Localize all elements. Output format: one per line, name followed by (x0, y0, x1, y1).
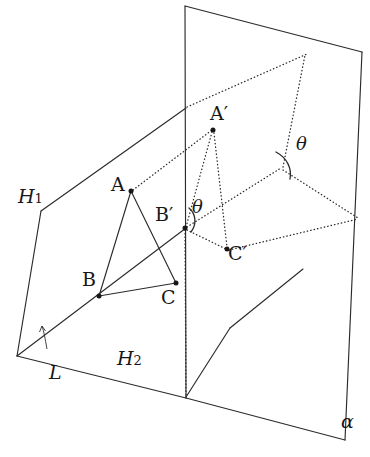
halfplane-h2-front-edge (17, 356, 186, 398)
label-point-c-prime-letter: C (228, 242, 243, 264)
vertex-dot-b (97, 294, 102, 299)
label-theta-near: θ (192, 198, 203, 216)
halfplane-h1-left-edge (17, 211, 41, 356)
theta-arc-far-fold (276, 152, 290, 179)
label-theta-far: θ (296, 135, 307, 153)
projection-aprime-to-cprime (214, 133, 227, 247)
label-point-c-prime-mark: ′ (243, 242, 247, 264)
plane-alpha-bottom-edge (186, 398, 345, 440)
label-point-a-prime-mark: ′ (224, 102, 228, 124)
label-point-b-prime: B′ (155, 205, 173, 224)
label-h2-subscript: 2 (134, 353, 142, 368)
label-point-b-prime-mark: ′ (169, 203, 173, 225)
hidden-plane-lower-right (229, 219, 358, 250)
label-h1-subscript: 1 (35, 191, 43, 206)
halfplane-h2-bend-edge (186, 328, 230, 397)
halfplane-h2-right-edge (230, 269, 303, 328)
label-point-b-prime-letter: B (155, 203, 169, 225)
label-point-a-prime: A′ (210, 104, 228, 123)
label-point-a-prime-letter: A (210, 102, 224, 124)
projection-bprime-to-cprime (187, 230, 226, 249)
label-h1-letter: H (18, 185, 35, 207)
label-h2: H2 (117, 349, 142, 368)
label-point-c: C (161, 288, 176, 307)
label-point-a: A (111, 175, 125, 194)
label-l: L (49, 363, 62, 382)
label-h2-letter: H (117, 347, 134, 369)
plane-alpha-top-edge (185, 6, 362, 52)
label-point-c-prime: C′ (228, 244, 247, 263)
hidden-plane-right-fall (283, 170, 358, 218)
label-h1: H1 (18, 187, 43, 206)
label-alpha: α (341, 412, 354, 431)
triangle-edge-ab (99, 191, 131, 296)
halfplane-h1-upper-edge (41, 108, 186, 211)
vertex-dot-b-prime (183, 226, 188, 231)
label-point-b: B (82, 270, 96, 289)
projection-a-to-aprime (133, 130, 212, 190)
hidden-plane-upper-edge (187, 54, 307, 107)
vertex-dot-a (129, 189, 134, 194)
vertex-dot-a-prime (211, 128, 216, 133)
geometry-canvas (0, 0, 370, 457)
vertex-dot-c (174, 281, 179, 286)
plane-alpha-right-edge (345, 52, 362, 440)
geometry-figure: H1 H2 L α A B C A′ B′ C′ θ θ (0, 0, 370, 457)
